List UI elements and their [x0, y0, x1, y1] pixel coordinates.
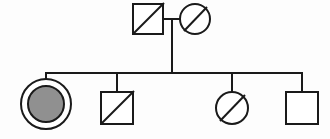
individual-I-2-female-deceased[interactable] — [180, 4, 210, 34]
individual-II-1-female-affected-proband[interactable] — [21, 79, 71, 129]
affected-inner-circle-symbol[interactable] — [28, 86, 64, 122]
male-square-symbol[interactable] — [286, 92, 318, 124]
generation-2-group — [21, 79, 318, 129]
pedigree-canvas — [0, 0, 330, 139]
pedigree-diagram: Pedigree Chart square = male, circle = f… — [0, 0, 330, 139]
connector-group — [45, 19, 303, 92]
individual-II-2-male-deceased[interactable] — [101, 91, 134, 124]
individual-I-1-male-deceased[interactable] — [133, 3, 164, 34]
individual-II-4-male-unaffected[interactable] — [286, 92, 318, 124]
individual-II-3-female-deceased[interactable] — [216, 92, 248, 124]
